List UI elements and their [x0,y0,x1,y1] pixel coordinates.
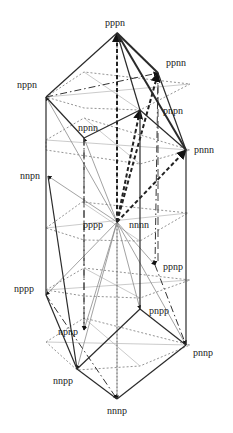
node-label-npnn: npnn [78,122,98,133]
lattice-diagram: pppnppnnnppnpnpnpnnnnpnnnnpnppppnnnnppnp… [0,0,233,433]
node-label-nnnp: nnnp [107,405,127,416]
node-label-nnpn: nnpn [20,170,40,181]
layer-diagonal [46,280,190,290]
thick-edge-pppp-pnnn [117,150,186,222]
node-label-pnnp: pnnp [193,347,213,358]
node-label-pnnn: pnnn [194,144,214,155]
node-label-ppnn: ppnn [166,57,186,68]
node-label-pnpn: pnpn [163,105,183,116]
dashdot-edge-nppn-ppnn [46,73,158,97]
node-label-nnpp: nnpp [53,375,73,386]
solid-edge-nnpp-nnnp [77,369,117,399]
fan-edge-nnpn [48,176,117,222]
fan-edge-nppn [46,97,117,222]
thick-edge-pppp-pnpn [117,110,140,222]
node-label-nppn: nppn [17,79,37,90]
node-label-pnpp: pnpp [149,305,169,316]
fan-edge-pnnp [117,222,186,345]
solid-edge-nnpn-nnpp [48,176,77,369]
fan-edge-npnp [84,222,117,330]
fan-edge-npnn [84,138,117,222]
layer-diagonal [46,342,190,345]
node-label-nppp: nppp [14,283,34,294]
node-label-pppn: pppn [105,17,125,28]
layer-diagonal [84,268,140,298]
solid-edges [46,33,186,399]
node-label-ppnp: ppnp [163,261,183,272]
solid-edge-nnpp-pnpp [77,309,140,369]
node-label-npnp: npnp [58,326,78,337]
node-label-nnnn: nnnn [129,219,149,230]
node-label-pppp: pppp [83,219,103,230]
solid-edge-nnnp-pnnp [117,345,186,399]
